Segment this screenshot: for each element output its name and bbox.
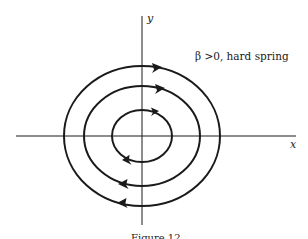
x-axis-label: x bbox=[290, 138, 296, 151]
arrow-left-icon bbox=[117, 198, 128, 209]
phase-portrait bbox=[0, 0, 308, 239]
figure-caption: Figure 12 bbox=[131, 232, 181, 239]
annotation-hard-spring: β >0, hard spring bbox=[195, 50, 289, 62]
y-axis-label: y bbox=[147, 12, 153, 25]
